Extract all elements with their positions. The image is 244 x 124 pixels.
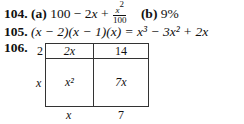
problem-number: 104. bbox=[4, 6, 28, 21]
problem-105: 105. (x − 2)(x − 1)(x) = x³ − 3x² + 2x bbox=[4, 24, 208, 40]
row-label: 2 bbox=[37, 44, 43, 59]
problem-106: 106. bbox=[4, 40, 28, 56]
part-b-label: (b) bbox=[141, 6, 158, 21]
part-b-value: 9% bbox=[161, 6, 179, 21]
part-a-label: (a) bbox=[31, 6, 47, 21]
problem-104: 104. (a) 100 − 2x + x2100 (b) 9% bbox=[4, 4, 179, 25]
cell-14: 14 bbox=[94, 44, 148, 58]
problem-number: 105. bbox=[4, 24, 28, 39]
factored-expression: (x − 2)(x − 1)(x) = x³ − 3x² + 2x bbox=[31, 24, 208, 39]
column-label: 7 bbox=[118, 108, 124, 123]
cell-2x: 2x bbox=[46, 44, 93, 58]
problem-number: 106. bbox=[4, 40, 28, 55]
column-label: x bbox=[66, 108, 71, 123]
row-label: x bbox=[36, 76, 41, 91]
cell-x-squared: x² bbox=[46, 59, 93, 106]
fraction: x2100 bbox=[113, 4, 127, 25]
cell-7x: 7x bbox=[94, 59, 148, 106]
part-a-expression: 100 − 2x + x2100 bbox=[50, 6, 127, 21]
